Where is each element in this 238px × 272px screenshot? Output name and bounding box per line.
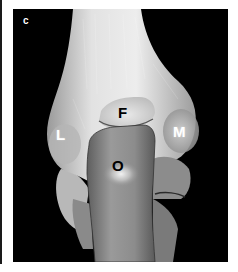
previous-panel-edge — [0, 0, 2, 264]
elbow-bone-rendering — [13, 9, 228, 262]
label-olecranon: O — [112, 158, 124, 173]
ct-image-panel: c L F M O — [13, 9, 228, 262]
panel-letter: c — [23, 16, 29, 26]
label-olecranon-fossa: F — [118, 105, 127, 120]
label-medial-epicondyle: M — [173, 124, 186, 139]
label-lateral-epicondyle: L — [56, 127, 65, 142]
